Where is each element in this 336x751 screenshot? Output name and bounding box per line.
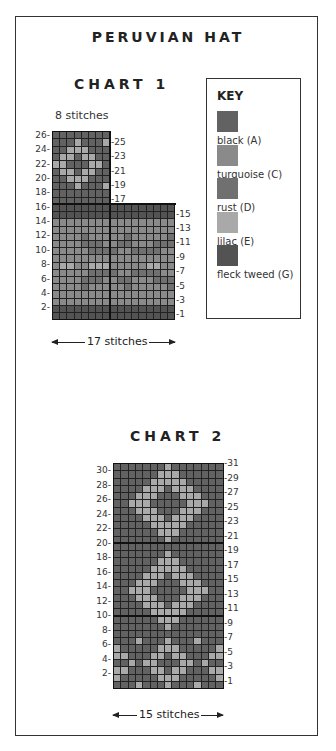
stitch-cell bbox=[114, 500, 120, 506]
stitch-cell bbox=[129, 653, 135, 659]
stitch-cell bbox=[118, 284, 124, 290]
stitch-cell bbox=[111, 291, 117, 297]
stitch-cell bbox=[60, 139, 66, 145]
stitch-cell bbox=[136, 631, 142, 637]
stitch-cell bbox=[158, 529, 164, 535]
stitch-cell bbox=[216, 566, 222, 572]
stitch-cell bbox=[194, 522, 200, 528]
key-panel: KEY black (A) turquoise (C) rust (D) lil… bbox=[206, 78, 301, 319]
stitch-cell bbox=[216, 653, 222, 659]
stitch-cell bbox=[139, 299, 145, 305]
stitch-cell bbox=[136, 595, 142, 601]
stitch-cell bbox=[121, 464, 127, 470]
key-heading: KEY bbox=[217, 89, 243, 103]
row-number-label: 12- bbox=[35, 231, 50, 240]
stitch-cell bbox=[209, 638, 215, 644]
stitch-cell bbox=[139, 263, 145, 269]
row-number-label: -9 bbox=[224, 619, 233, 628]
stitch-cell bbox=[202, 675, 208, 681]
arrow-left-icon bbox=[112, 712, 119, 718]
stitch-cell bbox=[194, 508, 200, 514]
stitch-cell bbox=[165, 566, 171, 572]
stitch-cell bbox=[67, 176, 73, 182]
stitch-cell bbox=[132, 212, 138, 218]
stitch-cell bbox=[158, 566, 164, 572]
stitch-cell bbox=[216, 595, 222, 601]
stitch-cell bbox=[60, 291, 66, 297]
stitch-cell bbox=[187, 631, 193, 637]
stitch-cell bbox=[114, 580, 120, 586]
stitch-cell bbox=[143, 653, 149, 659]
stitch-cell bbox=[132, 227, 138, 233]
stitch-cell bbox=[125, 219, 131, 225]
stitch-cell bbox=[180, 464, 186, 470]
stitch-cell bbox=[82, 169, 88, 175]
stitch-cell bbox=[136, 573, 142, 579]
stitch-cell bbox=[187, 544, 193, 550]
stitch-cell bbox=[172, 580, 178, 586]
stitch-cell bbox=[125, 313, 131, 319]
stitch-cell bbox=[75, 234, 81, 240]
stitch-cell bbox=[67, 234, 73, 240]
row-number-label: 16- bbox=[35, 203, 50, 212]
stitch-cell bbox=[147, 306, 153, 312]
stitch-cell bbox=[60, 313, 66, 319]
stitch-cell bbox=[75, 284, 81, 290]
stitch-cell bbox=[129, 645, 135, 651]
row-number-label: -15 bbox=[224, 575, 239, 584]
stitch-cell bbox=[147, 212, 153, 218]
stitch-cell bbox=[151, 587, 157, 593]
stitch-cell bbox=[209, 602, 215, 608]
stitch-cell bbox=[82, 241, 88, 247]
stitch-cell bbox=[202, 573, 208, 579]
stitch-cell bbox=[151, 660, 157, 666]
stitch-cell bbox=[187, 500, 193, 506]
stitch-cell bbox=[194, 551, 200, 557]
stitch-cell bbox=[121, 515, 127, 521]
stitch-cell bbox=[89, 154, 95, 160]
stitch-cell bbox=[67, 313, 73, 319]
stitch-cell bbox=[114, 508, 120, 514]
stitch-cell bbox=[161, 277, 167, 283]
stitch-cell bbox=[129, 682, 135, 688]
stitch-cell bbox=[67, 219, 73, 225]
chart1-bottom-width-label: 17 stitches bbox=[85, 335, 149, 348]
stitch-cell bbox=[75, 241, 81, 247]
stitch-cell bbox=[139, 227, 145, 233]
stitch-cell bbox=[151, 508, 157, 514]
stitch-cell bbox=[209, 508, 215, 514]
stitch-cell bbox=[114, 682, 120, 688]
stitch-cell bbox=[187, 551, 193, 557]
stitch-cell bbox=[89, 241, 95, 247]
stitch-cell bbox=[158, 675, 164, 681]
stitch-cell bbox=[125, 263, 131, 269]
stitch-cell bbox=[172, 529, 178, 535]
stitch-cell bbox=[147, 219, 153, 225]
stitch-cell bbox=[53, 176, 59, 182]
stitch-cell bbox=[75, 313, 81, 319]
stitch-cell bbox=[209, 493, 215, 499]
stitch-cell bbox=[53, 227, 59, 233]
stitch-cell bbox=[82, 139, 88, 145]
stitch-cell bbox=[139, 277, 145, 283]
stitch-cell bbox=[172, 551, 178, 557]
chart1-top-width-label: 8 stitches bbox=[55, 109, 108, 122]
stitch-cell bbox=[180, 544, 186, 550]
stitch-cell bbox=[136, 587, 142, 593]
stitch-cell bbox=[154, 284, 160, 290]
stitch-cell bbox=[129, 464, 135, 470]
stitch-cell bbox=[129, 486, 135, 492]
stitch-cell bbox=[180, 602, 186, 608]
stitch-cell bbox=[158, 602, 164, 608]
stitch-cell bbox=[168, 219, 174, 225]
stitch-cell bbox=[82, 219, 88, 225]
stitch-cell bbox=[129, 479, 135, 485]
row-number-label: -9 bbox=[176, 253, 185, 262]
chart2-width-label: 15 stitches bbox=[137, 708, 201, 721]
stitch-cell bbox=[143, 529, 149, 535]
stitch-cell bbox=[121, 660, 127, 666]
stitch-cell bbox=[147, 227, 153, 233]
stitch-cell bbox=[114, 551, 120, 557]
row-number-label: 30- bbox=[96, 466, 111, 475]
stitch-cell bbox=[121, 587, 127, 593]
